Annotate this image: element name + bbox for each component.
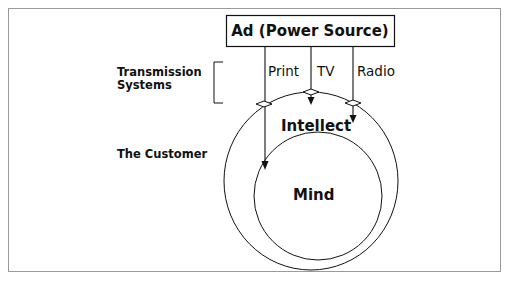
print-entry-diamond-icon	[256, 101, 272, 107]
transmission-systems-label: Transmission Systems	[117, 66, 202, 92]
transmission-bracket-icon	[214, 62, 223, 103]
channel-radio-label: Radio	[357, 63, 395, 79]
tv-arrowhead-icon	[308, 97, 315, 105]
mind-label: Mind	[293, 186, 334, 204]
print-arrowhead-icon	[262, 161, 269, 170]
intellect-label: Intellect	[281, 117, 351, 135]
channel-print-label: Print	[268, 63, 299, 79]
tv-entry-diamond-icon	[303, 89, 319, 95]
customer-label: The Customer	[117, 148, 207, 161]
transmission-label-line2: Systems	[117, 79, 202, 92]
channel-tv-label: TV	[317, 63, 334, 79]
radio-entry-diamond-icon	[345, 100, 361, 106]
ad-source-label: Ad (Power Source)	[226, 15, 394, 46]
